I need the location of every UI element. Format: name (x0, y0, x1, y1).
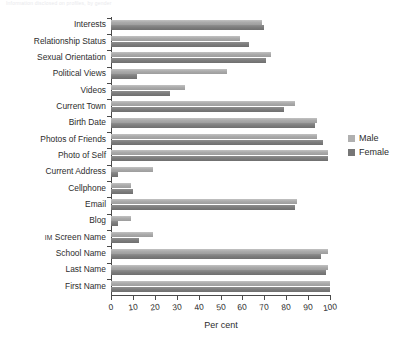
category-label-school-name: School Name (0, 249, 106, 258)
x-axis-tick-label: 100 (322, 301, 337, 313)
category-label-birth-date: Birth Date (0, 118, 106, 127)
category-label-cellphone: Cellphone (0, 184, 106, 193)
x-axis-tick (308, 295, 309, 300)
bar-female-last-name (111, 270, 326, 275)
x-axis-tick (264, 295, 265, 300)
x-axis-title: Per cent (111, 320, 331, 330)
bar-female-photos-of-friends (111, 140, 323, 145)
category-label-photos-of-friends: Photos of Friends (0, 135, 106, 144)
x-axis-tick (199, 295, 200, 300)
bar-male-current-town (111, 101, 295, 106)
x-axis-tick (133, 295, 134, 300)
x-axis-tick-label: 50 (215, 301, 226, 312)
bar-male-photos-of-friends (111, 134, 317, 139)
bar-female-school-name (111, 254, 321, 259)
bar-male-blog (111, 216, 131, 221)
bar-chart: Information disclosed on profiles, by ge… (0, 0, 408, 343)
category-label-videos: Videos (0, 86, 106, 95)
bar-group (111, 148, 330, 164)
bar-group (111, 279, 330, 295)
x-axis-tick (286, 295, 287, 300)
legend-swatch-male-icon (348, 135, 355, 142)
x-axis-tick (111, 295, 112, 300)
bar-male-photo-of-self (111, 150, 328, 155)
bar-male-current-address (111, 167, 153, 172)
bar-male-im-screen-name (111, 232, 153, 237)
bar-group (111, 213, 330, 229)
bar-male-last-name (111, 265, 328, 270)
x-axis-tick-label: 60 (237, 301, 248, 312)
bar-group (111, 230, 330, 246)
bar-female-photo-of-self (111, 156, 328, 161)
bar-group (111, 82, 330, 98)
bar-male-interests (111, 20, 262, 25)
bar-female-blog (111, 221, 118, 226)
bar-male-relationship-status (111, 36, 240, 41)
x-axis-tick (221, 295, 222, 300)
category-label-current-address: Current Address (0, 167, 106, 176)
x-axis-tick (177, 295, 178, 300)
bar-male-first-name (111, 281, 330, 286)
bar-group (111, 17, 330, 33)
bar-male-email (111, 199, 297, 204)
bar-group (111, 164, 330, 180)
category-axis-labels: InterestsRelationship StatusSexual Orien… (0, 17, 106, 295)
bar-group (111, 50, 330, 66)
plot-area (111, 17, 330, 295)
x-axis-tick-label: 20 (149, 301, 160, 312)
category-label-last-name: Last Name (0, 265, 106, 274)
bar-female-current-town (111, 107, 284, 112)
bar-female-sexual-orientation (111, 58, 266, 63)
bar-female-videos (111, 91, 170, 96)
bar-group (111, 246, 330, 262)
bar-female-current-address (111, 172, 118, 177)
category-label-sexual-orientation: Sexual Orientation (0, 53, 106, 62)
legend-label-female: Female (359, 147, 389, 157)
x-axis-tick (330, 295, 331, 300)
bar-group (111, 197, 330, 213)
bar-female-cellphone (111, 189, 133, 194)
bar-male-birth-date (111, 118, 317, 123)
bar-female-email (111, 205, 295, 210)
bar-group (111, 131, 330, 147)
x-axis-tick-label: 80 (281, 301, 292, 312)
bar-female-interests (111, 25, 264, 30)
bar-group (111, 66, 330, 82)
x-axis-tick-label: 70 (259, 301, 270, 312)
bar-male-school-name (111, 249, 328, 254)
x-axis-tick-label: 90 (303, 301, 314, 312)
bar-group (111, 181, 330, 197)
bar-male-cellphone (111, 183, 131, 188)
category-label-relationship-status: Relationship Status (0, 37, 106, 46)
legend-swatch-female-icon (348, 149, 355, 156)
x-axis-tick-label: 30 (171, 301, 182, 312)
bar-female-first-name (111, 287, 330, 292)
x-axis-tick-label: 0 (108, 302, 114, 313)
bar-male-political-views (111, 69, 227, 74)
bar-group (111, 262, 330, 278)
legend: Male Female (348, 131, 406, 159)
bar-group (111, 115, 330, 131)
legend-item-female[interactable]: Female (348, 145, 406, 159)
x-axis-tick-label: 10 (128, 301, 139, 312)
bar-group (111, 99, 330, 115)
bar-female-relationship-status (111, 42, 249, 47)
x-axis-tick-label: 40 (193, 301, 204, 312)
bar-male-sexual-orientation (111, 52, 271, 57)
legend-item-male[interactable]: Male (348, 131, 406, 145)
category-label-interests: Interests (0, 20, 106, 29)
category-label-photo-of-self: Photo of Self (0, 151, 106, 160)
x-axis-tick (242, 295, 243, 300)
bar-female-birth-date (111, 123, 315, 128)
category-label-blog: Blog (0, 216, 106, 225)
top-caption: Information disclosed on profiles, by ge… (6, 0, 112, 6)
category-label-first-name: First Name (0, 282, 106, 291)
bar-male-videos (111, 85, 185, 90)
category-label-current-town: Current Town (0, 102, 106, 111)
bar-group (111, 33, 330, 49)
category-label-email: Email (0, 200, 106, 209)
bar-female-im-screen-name (111, 238, 139, 243)
legend-label-male: Male (359, 133, 379, 143)
category-label-political-views: Political Views (0, 69, 106, 78)
x-axis-tick (155, 295, 156, 300)
